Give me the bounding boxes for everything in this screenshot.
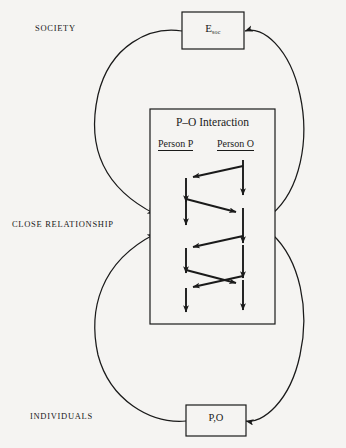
label-individuals: INDIVIDUALS [30,411,93,421]
box-society-label: Esoc [182,22,244,35]
box-society-label-subscript: soc [212,29,221,35]
column-header-person-p: Person P [158,138,193,151]
diagram-root: SOCIETY CLOSE RELATIONSHIP INDIVIDUALS E… [0,0,346,448]
label-close-relationship: CLOSE RELATIONSHIP [12,219,114,229]
box-society-label-main: E [205,22,212,34]
box-individuals-label: P,O [186,412,246,423]
column-header-person-o: Person O [217,138,254,151]
label-society: SOCIETY [35,23,76,33]
po-interaction-title: P–O Interaction [150,116,275,128]
